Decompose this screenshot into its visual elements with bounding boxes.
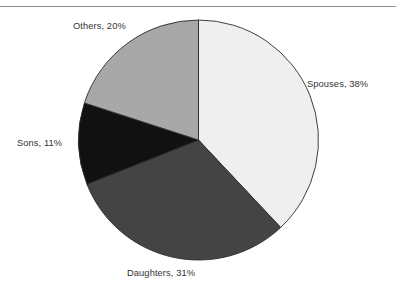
pie-label-others: Others, 20%: [73, 22, 126, 31]
pie-chart: Others, 20% Spouses, 38% Sons, 11% Daugh…: [0, 0, 396, 293]
pie-label-daughters: Daughters, 31%: [127, 269, 195, 278]
chart-page: Others, 20% Spouses, 38% Sons, 11% Daugh…: [0, 0, 396, 293]
pie-label-sons: Sons, 11%: [17, 139, 62, 148]
pie-slice-group: [79, 20, 319, 260]
pie-label-spouses: Spouses, 38%: [307, 80, 368, 89]
